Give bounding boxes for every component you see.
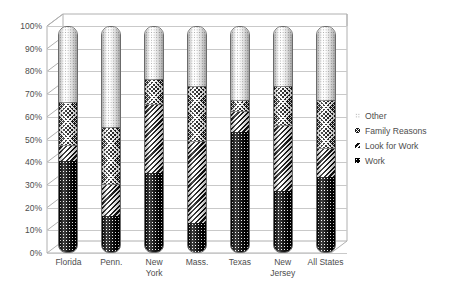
y-tick-label: 20%: [2, 203, 42, 213]
y-axis-ticks: 100%90%80%70%60%50%40%30%20%10%0%: [2, 0, 42, 227]
bar-texas: [230, 26, 250, 253]
segment-look-for-work: [317, 148, 335, 178]
y-tick-label: 30%: [2, 180, 42, 190]
segment-work: [231, 132, 249, 252]
chart-legend: OtherFamily ReasonsLook for WorkWork: [355, 108, 450, 168]
y-tick-label: 60%: [2, 112, 42, 122]
segment-work: [317, 177, 335, 252]
legend-item: Family Reasons: [355, 123, 450, 138]
segment-work: [59, 161, 77, 252]
legend-swatch-icon: [355, 158, 360, 163]
segment-work: [188, 223, 206, 253]
segment-other: [59, 26, 77, 102]
segment-family-reasons: [59, 102, 77, 145]
legend-label: Family Reasons: [365, 126, 427, 136]
bar-new-york: [144, 26, 164, 253]
y-tick-label: 100%: [2, 21, 42, 31]
y-tick-label: 70%: [2, 89, 42, 99]
segment-other: [274, 26, 292, 86]
legend-item: Work: [355, 153, 450, 168]
x-tick-label: Penn.: [90, 257, 133, 268]
segment-work: [102, 216, 120, 252]
legend-item: Other: [355, 108, 450, 123]
segment-other: [188, 26, 206, 86]
bar-penn.: [101, 26, 121, 253]
x-tick-label: New York: [133, 257, 176, 279]
segment-other: [145, 26, 163, 79]
x-tick-label: Florida: [47, 257, 90, 268]
x-tick-label: Mass.: [176, 257, 219, 268]
segment-look-for-work: [274, 125, 292, 191]
segment-look-for-work: [188, 141, 206, 223]
bar-florida: [58, 26, 78, 253]
segment-look-for-work: [102, 184, 120, 216]
segment-family-reasons: [145, 79, 163, 104]
legend-item: Look for Work: [355, 138, 450, 153]
segment-work: [274, 191, 292, 252]
segment-family-reasons: [317, 100, 335, 148]
y-tick-label: 90%: [2, 44, 42, 54]
legend-swatch-icon: [355, 113, 360, 118]
segment-work: [145, 173, 163, 252]
segment-other: [231, 26, 249, 100]
bar-mass.: [187, 26, 207, 253]
segment-family-reasons: [102, 127, 120, 184]
legend-label: Other: [365, 111, 387, 121]
legend-label: Work: [365, 156, 385, 166]
segment-look-for-work: [231, 111, 249, 131]
x-tick-label: New Jersey: [261, 257, 304, 279]
gridline: [47, 253, 347, 254]
legend-label: Look for Work: [365, 141, 418, 151]
y-tick-label: 80%: [2, 66, 42, 76]
bar-new-jersey: [273, 26, 293, 253]
segment-look-for-work: [145, 104, 163, 172]
bar-all-states: [316, 26, 336, 253]
legend-swatch-icon: [355, 143, 360, 148]
legend-swatch-icon: [355, 128, 360, 133]
segment-other: [102, 26, 120, 127]
segment-family-reasons: [188, 86, 206, 140]
x-axis-ticks: FloridaPenn.New YorkMass.TexasNew Jersey…: [47, 257, 357, 285]
segment-other: [317, 26, 335, 100]
y-tick-label: 50%: [2, 135, 42, 145]
segment-family-reasons: [231, 100, 249, 111]
stacked-bar-chart: 100%90%80%70%60%50%40%30%20%10%0% Florid…: [0, 0, 452, 287]
x-tick-label: All States: [304, 257, 347, 268]
x-tick-label: Texas: [218, 257, 261, 268]
segment-family-reasons: [274, 86, 292, 125]
y-tick-label: 0%: [2, 248, 42, 258]
y-tick-label: 40%: [2, 157, 42, 167]
y-tick-label: 10%: [2, 225, 42, 235]
plot-area: [47, 26, 347, 253]
segment-look-for-work: [59, 145, 77, 161]
